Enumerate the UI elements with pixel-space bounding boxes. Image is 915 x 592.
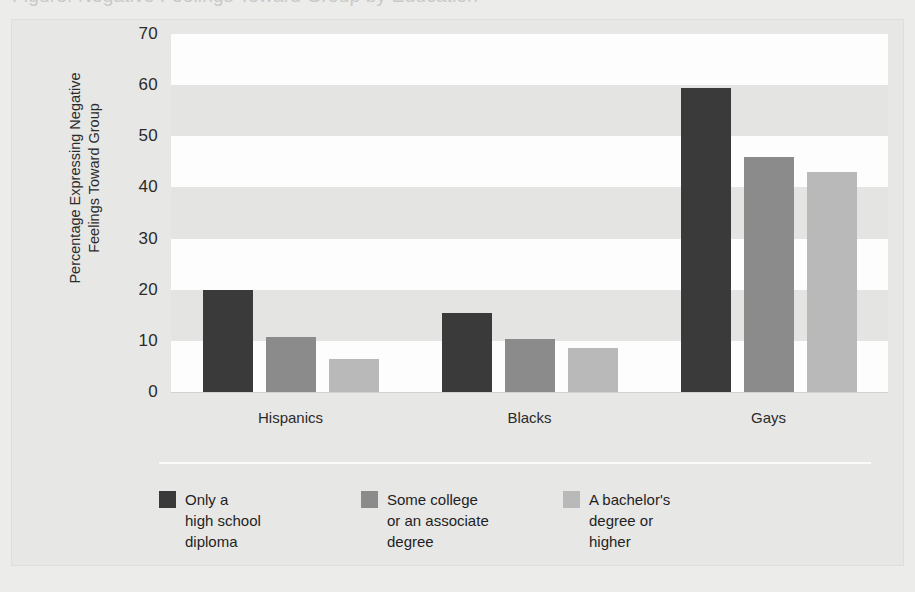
y-axis-tick-label: 40 <box>138 177 158 197</box>
cut-off-title-strip: Figure: Negative Feelings Toward Group b… <box>0 0 915 16</box>
category-label: Blacks <box>507 409 551 426</box>
legend-separator-rule <box>159 462 871 464</box>
legend-label: A bachelor's degree or higher <box>589 489 670 552</box>
y-axis-tick-labels: 010203040506070 <box>106 34 166 392</box>
bar <box>329 359 379 392</box>
y-axis-tick-label: 50 <box>138 126 158 146</box>
y-axis-tick-label: 70 <box>138 24 158 44</box>
bar <box>266 337 316 392</box>
legend-swatch-icon <box>563 491 580 508</box>
cut-off-title-text: Figure: Negative Feelings Toward Group b… <box>12 0 478 7</box>
bar <box>807 172 857 392</box>
y-axis-tick-label: 30 <box>138 229 158 249</box>
legend-label: Some college or an associate degree <box>387 489 489 552</box>
chart-legend: Only a high school diplomaSome college o… <box>159 489 879 561</box>
y-axis-tick-label: 20 <box>138 280 158 300</box>
bar <box>442 313 492 392</box>
legend-label: Only a high school diploma <box>185 489 261 552</box>
bar <box>203 290 253 392</box>
x-axis-baseline <box>171 392 888 393</box>
plot-wrapper: Percentage Expressing NegativeFeelings T… <box>11 19 904 419</box>
bar <box>505 339 555 392</box>
category-label: Hispanics <box>258 409 323 426</box>
bars-layer <box>171 34 888 392</box>
legend-item[interactable]: Only a high school diploma <box>159 489 261 552</box>
legend-swatch-icon <box>361 491 378 508</box>
y-axis-title-line: Feelings Toward Group <box>85 28 104 328</box>
bar <box>681 88 731 392</box>
legend-item[interactable]: Some college or an associate degree <box>361 489 489 552</box>
bar <box>744 157 794 392</box>
y-axis-title: Percentage Expressing NegativeFeelings T… <box>66 28 104 328</box>
y-axis-title-line: Percentage Expressing Negative <box>66 28 85 328</box>
y-axis-tick-label: 10 <box>138 331 158 351</box>
legend-swatch-icon <box>159 491 176 508</box>
category-label: Gays <box>751 409 786 426</box>
category-axis-labels: HispanicsBlacksGays <box>171 401 888 437</box>
bar <box>568 348 618 392</box>
y-axis-tick-label: 0 <box>148 382 158 402</box>
figure-panel: Percentage Expressing NegativeFeelings T… <box>11 19 904 566</box>
y-axis-tick-label: 60 <box>138 75 158 95</box>
legend-item[interactable]: A bachelor's degree or higher <box>563 489 670 552</box>
